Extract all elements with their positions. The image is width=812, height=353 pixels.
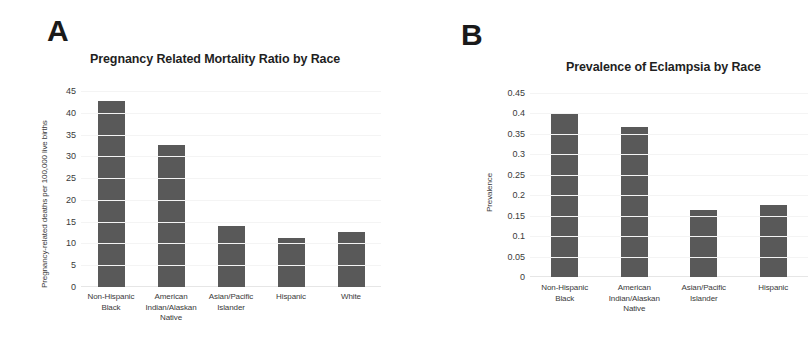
bar-slot — [530, 93, 600, 277]
y-axis-tick-a: 35 — [66, 130, 81, 140]
chart-title-b: Prevalence of Eclampsia by Race — [566, 60, 761, 74]
y-axis-tick-a: 10 — [66, 238, 81, 248]
y-axis-tick-a: 5 — [71, 260, 81, 270]
x-axis-category-label: Hispanic — [739, 283, 809, 315]
panel-letter-b: B — [461, 20, 483, 50]
y-axis-label-a: Pregnancy-related deaths per 100,000 liv… — [40, 120, 49, 288]
bar-slot — [201, 91, 261, 287]
chart-title-a: Pregnancy Related Mortality Ratio by Rac… — [90, 52, 340, 66]
gridline — [530, 257, 808, 258]
gridline — [530, 175, 808, 176]
plot-area-a: 051015202530354045 — [81, 91, 381, 287]
y-axis-tick-b: 0.25 — [507, 170, 530, 180]
y-axis-tick-b: 0.45 — [507, 88, 530, 98]
x-axis-category-label: Hispanic — [261, 292, 321, 324]
bar-slot — [600, 93, 670, 277]
bar-group-b — [530, 93, 808, 277]
bar-slot — [321, 91, 381, 287]
gridline — [530, 93, 808, 94]
y-axis-tick-b: 0.4 — [512, 108, 530, 118]
gridline — [81, 222, 381, 223]
y-axis-tick-b: 0.05 — [507, 252, 530, 262]
y-axis-tick-a: 15 — [66, 217, 81, 227]
bar — [621, 127, 648, 277]
gridline — [530, 216, 808, 217]
figure-container: A Pregnancy Related Mortality Ratio by R… — [0, 0, 812, 353]
y-axis-tick-a: 45 — [66, 86, 81, 96]
gridline — [81, 91, 381, 92]
gridline — [81, 135, 381, 136]
gridline — [81, 265, 381, 266]
panel-a: A Pregnancy Related Mortality Ratio by R… — [0, 0, 406, 353]
gridline — [530, 154, 808, 155]
y-axis-tick-b: 0.2 — [512, 190, 530, 200]
y-axis-tick-a: 25 — [66, 173, 81, 183]
gridline — [530, 113, 808, 114]
bar-slot — [669, 93, 739, 277]
y-axis-tick-b: 0.15 — [507, 211, 530, 221]
gridline — [81, 243, 381, 244]
x-axis-labels-a: Non-Hispanic BlackAmerican Indian/Alaska… — [81, 292, 381, 324]
bar-slot — [739, 93, 809, 277]
panel-b: B Prevalence of Eclampsia by Race Preval… — [406, 0, 812, 353]
bar — [98, 101, 125, 287]
gridline — [81, 156, 381, 157]
x-axis-category-label: American Indian/Alaskan Native — [600, 283, 670, 315]
bar-group-a — [81, 91, 381, 287]
plot-area-b: 00.050.10.150.20.250.30.350.40.45 — [530, 93, 808, 277]
gridline — [530, 195, 808, 196]
bar-slot — [81, 91, 141, 287]
y-axis-tick-b: 0.3 — [512, 149, 530, 159]
bar — [338, 232, 365, 287]
bar-slot — [141, 91, 201, 287]
gridline — [81, 178, 381, 179]
gridline — [81, 113, 381, 114]
y-axis-tick-a: 0 — [71, 282, 81, 292]
y-axis-tick-a: 40 — [66, 108, 81, 118]
gridline — [530, 236, 808, 237]
bar — [278, 238, 305, 287]
bar-slot — [261, 91, 321, 287]
y-axis-tick-a: 30 — [66, 151, 81, 161]
y-axis-tick-b: 0 — [520, 272, 530, 282]
x-axis-category-label: Non-Hispanic Black — [530, 283, 600, 315]
x-axis-labels-b: Non-Hispanic BlackAmerican Indian/Alaska… — [530, 283, 808, 315]
panel-letter-a: A — [47, 16, 69, 46]
gridline — [530, 134, 808, 135]
y-axis-label-b: Prevalence — [485, 173, 494, 212]
x-axis-category-label: Non-Hispanic Black — [81, 292, 141, 324]
x-axis-category-label: White — [321, 292, 381, 324]
y-axis-tick-a: 20 — [66, 195, 81, 205]
x-axis-category-label: Asian/Pacific Islander — [669, 283, 739, 315]
x-axis-category-label: American Indian/Alaskan Native — [141, 292, 201, 324]
y-axis-tick-b: 0.35 — [507, 129, 530, 139]
gridline — [81, 200, 381, 201]
bar — [218, 226, 245, 287]
x-axis-category-label: Asian/Pacific Islander — [201, 292, 261, 324]
y-axis-tick-b: 0.1 — [512, 231, 530, 241]
bar — [690, 210, 717, 277]
